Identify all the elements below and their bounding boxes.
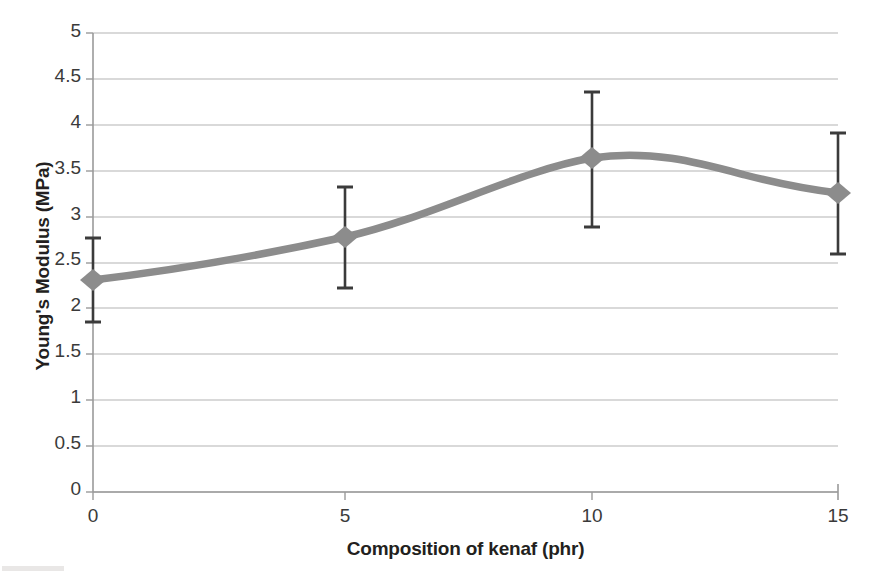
- error-bars: [85, 92, 846, 322]
- data-point-marker-x0: [80, 269, 106, 291]
- chart-figure: Young's Modulus (MPa) Composition of ken…: [0, 0, 870, 579]
- page-scan-artifact: [2, 566, 64, 571]
- data-point-marker-x15: [825, 182, 851, 204]
- data-point-marker-x5: [332, 226, 358, 248]
- plot-canvas: [0, 0, 870, 579]
- data-point-marker-x10: [579, 147, 605, 169]
